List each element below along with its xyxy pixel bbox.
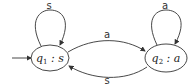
self-loop-q2 bbox=[152, 10, 182, 45]
label-q1-q2: a bbox=[104, 29, 110, 40]
state-diagram: s a s a q1 : s q2 : a bbox=[0, 0, 192, 84]
svg-text:q2 : a: q2 : a bbox=[152, 52, 181, 66]
svg-text:q1 : s: q1 : s bbox=[36, 52, 64, 66]
label-q2-q2: a bbox=[162, 0, 168, 11]
label-q2-q1: s bbox=[104, 75, 109, 84]
state-q1: q1 : s bbox=[31, 45, 69, 71]
state-q2: q2 : a bbox=[145, 44, 187, 72]
label-q1-q1: s bbox=[46, 0, 51, 11]
edge-q1-q2 bbox=[68, 41, 145, 52]
self-loop-q1 bbox=[35, 10, 65, 46]
